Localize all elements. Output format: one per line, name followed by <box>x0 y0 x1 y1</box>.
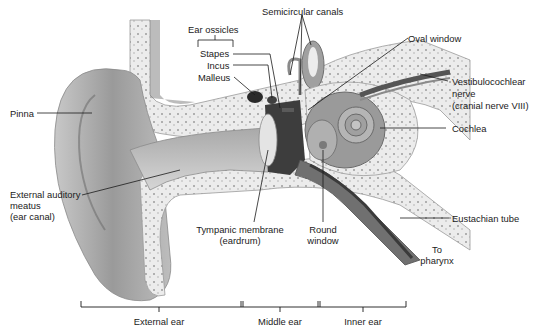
label-tympanic-membrane-1: Tympanic membrane <box>185 224 295 235</box>
tympanic-membrane-shape <box>259 114 277 166</box>
label-vestibulocochlear-1: Vestibulocochlear <box>452 76 525 87</box>
ear-anatomy-illustration <box>0 0 535 334</box>
label-to-pharynx-1: To <box>412 244 462 255</box>
region-brackets <box>81 301 406 312</box>
label-to-pharynx-2: pharynx <box>412 255 462 266</box>
label-external-auditory-2: meatus <box>10 200 41 211</box>
label-malleus: Malleus <box>198 72 230 83</box>
label-eustachian-tube: Eustachian tube <box>452 213 519 224</box>
region-external-ear: External ear <box>109 316 209 327</box>
label-pinna: Pinna <box>10 108 34 119</box>
label-vestibulocochlear-2: nerve <box>452 88 475 99</box>
label-ear-ossicles: Ear ossicles <box>188 24 239 35</box>
label-incus: Incus <box>207 60 229 71</box>
label-external-auditory-3: (ear canal) <box>10 211 55 222</box>
label-stapes: Stapes <box>200 48 229 59</box>
label-semicircular-canals: Semicircular canals <box>262 6 343 17</box>
label-round-window-2: window <box>303 235 343 246</box>
label-round-window-1: Round <box>303 224 343 235</box>
label-cochlea: Cochlea <box>452 123 486 134</box>
label-vestibulocochlear-3: (cranial nerve VIII) <box>452 100 529 111</box>
label-oval-window: Oval window <box>408 33 461 44</box>
label-external-auditory-1: External auditory <box>10 189 80 200</box>
region-middle-ear: Middle ear <box>240 316 320 327</box>
region-inner-ear: Inner ear <box>323 316 403 327</box>
label-tympanic-membrane-2: (eardrum) <box>185 235 295 246</box>
